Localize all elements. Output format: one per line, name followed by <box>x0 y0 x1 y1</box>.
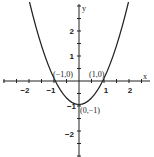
y-tick-label: −2 <box>65 130 75 139</box>
y-axis-label: y <box>82 4 86 13</box>
x-tick-label: 2 <box>128 86 133 95</box>
x-tick-label: −2 <box>20 86 30 95</box>
annotation-1-0: (1,0) <box>89 70 105 79</box>
x-tick-label: 1 <box>104 86 109 95</box>
y-tick-label: 2 <box>70 27 75 36</box>
x-tick-label: −1 <box>46 86 56 95</box>
y-tick-label: 1 <box>70 52 75 61</box>
x-axis-label: x <box>143 72 147 81</box>
parabola-graph: y x −2 −1 1 2 2 1 −1 −2 (−1,0) (1,0) (0,… <box>0 0 154 157</box>
annotation-0-neg1: (0,−1) <box>80 106 100 115</box>
annotation-neg1-0: (−1,0) <box>53 70 73 79</box>
